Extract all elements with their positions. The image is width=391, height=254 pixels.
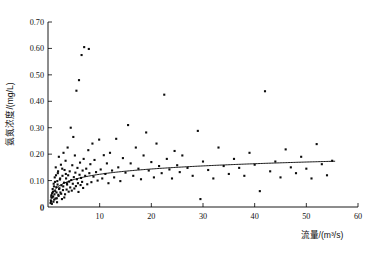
data-point: [238, 167, 240, 169]
data-point: [137, 168, 139, 170]
data-point: [52, 201, 54, 203]
data-point: [89, 163, 91, 165]
data-point: [259, 190, 261, 192]
data-point: [248, 152, 250, 154]
data-point: [56, 201, 58, 203]
data-point: [181, 154, 183, 156]
data-point: [52, 188, 54, 190]
y-tick-label: 0.70: [30, 18, 44, 27]
data-point: [78, 174, 80, 176]
data-point: [285, 148, 287, 150]
data-point: [79, 162, 81, 164]
data-point: [81, 181, 83, 183]
data-point: [197, 130, 199, 132]
data-point: [60, 193, 62, 195]
data-point: [153, 176, 155, 178]
data-point: [150, 161, 152, 163]
data-point: [57, 183, 59, 185]
data-point: [145, 131, 147, 133]
data-point: [64, 193, 66, 195]
data-point: [143, 154, 145, 156]
data-point: [54, 176, 56, 178]
data-point: [171, 177, 173, 179]
x-tick-label: 40: [251, 212, 259, 221]
data-point: [148, 169, 150, 171]
y-tick-label: 0.60: [30, 44, 44, 53]
data-point: [55, 166, 57, 168]
data-point: [106, 162, 108, 164]
data-point: [91, 143, 93, 145]
y-tick-label: 0.10: [30, 177, 44, 186]
data-point: [88, 172, 90, 174]
data-point: [176, 164, 178, 166]
data-point: [92, 176, 94, 178]
data-point: [111, 169, 113, 171]
data-point: [65, 160, 67, 162]
x-tick-label: 60: [354, 212, 362, 221]
data-point: [93, 159, 95, 161]
data-point: [83, 158, 85, 160]
data-point: [83, 46, 85, 48]
data-point: [98, 139, 100, 141]
y-tick-label: 0.50: [30, 71, 44, 80]
data-point: [130, 162, 132, 164]
data-point: [113, 176, 115, 178]
data-point: [132, 175, 134, 177]
x-tick-label: 50: [302, 212, 310, 221]
data-point: [56, 180, 58, 182]
data-point: [279, 176, 281, 178]
data-point: [61, 198, 63, 200]
data-point: [62, 189, 64, 191]
data-point: [67, 146, 69, 148]
scatter-plot-figure: 00.100.200.300.400.500.600.70 1020304050…: [0, 0, 391, 254]
data-point: [321, 163, 323, 165]
data-point: [161, 172, 163, 174]
data-point: [326, 174, 328, 176]
data-point: [58, 195, 60, 197]
data-point: [101, 177, 103, 179]
data-point: [168, 168, 170, 170]
data-point: [155, 143, 157, 145]
data-point: [77, 191, 79, 193]
data-point: [55, 174, 57, 176]
data-point: [158, 165, 160, 167]
data-point: [76, 167, 78, 169]
data-point: [75, 90, 77, 92]
data-point: [295, 172, 297, 174]
data-point: [70, 127, 72, 129]
data-point: [71, 164, 73, 166]
data-point: [124, 172, 126, 174]
data-point: [100, 168, 102, 170]
data-point: [72, 136, 74, 138]
data-point: [57, 172, 59, 174]
data-point: [62, 152, 64, 154]
data-point: [274, 160, 276, 162]
data-point: [58, 156, 60, 158]
data-point: [55, 191, 57, 193]
data-point: [78, 79, 80, 81]
data-point: [86, 183, 88, 185]
data-point: [290, 166, 292, 168]
data-point-group: [50, 46, 334, 205]
x-tick-label: 30: [199, 212, 207, 221]
chart-canvas: 00.100.200.300.400.500.600.70 1020304050…: [0, 0, 391, 254]
data-point: [117, 166, 119, 168]
data-point: [77, 182, 79, 184]
data-point: [63, 169, 65, 171]
y-tick-label: 0.40: [30, 97, 44, 106]
data-point: [127, 124, 129, 126]
data-point: [140, 178, 142, 180]
data-point: [53, 193, 55, 195]
data-point: [65, 173, 67, 175]
data-point: [103, 154, 105, 156]
data-point: [54, 197, 56, 199]
data-point: [69, 170, 71, 172]
data-point: [61, 175, 63, 177]
data-point: [81, 54, 83, 56]
data-point: [88, 48, 90, 50]
data-point: [207, 169, 209, 171]
data-point: [82, 169, 84, 171]
data-point: [95, 171, 97, 173]
data-point: [62, 185, 64, 187]
data-point: [90, 181, 92, 183]
